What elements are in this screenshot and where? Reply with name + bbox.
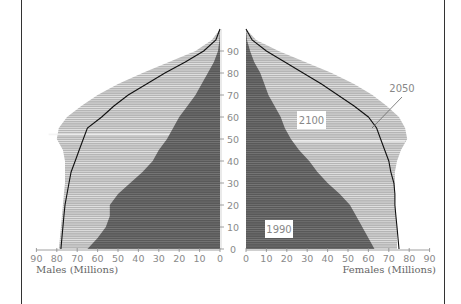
males-axis-title: Males (Millions) — [36, 264, 118, 275]
age-tick-label: 0 — [230, 244, 236, 255]
female-x-tick-label: 30 — [301, 253, 313, 264]
female-x-tick-label: 90 — [424, 253, 436, 264]
female-x-tick-label: 0 — [243, 253, 249, 264]
label-1990: 1990 — [266, 224, 291, 235]
age-tick-label: 20 — [227, 200, 239, 211]
male-x-tick-label: 60 — [92, 253, 104, 264]
female-x-tick-label: 40 — [322, 253, 334, 264]
female-x-tick-label: 20 — [281, 253, 293, 264]
female-x-tick-label: 80 — [403, 253, 415, 264]
age-tick-label: 40 — [227, 156, 239, 167]
age-tick-label: 50 — [227, 134, 239, 145]
male-x-tick-label: 10 — [194, 253, 206, 264]
male-x-tick-label: 80 — [51, 253, 63, 264]
female-x-tick-label: 50 — [342, 253, 354, 264]
females-axis-title: Females (Millions) — [342, 264, 436, 275]
female-x-tick-label: 10 — [260, 253, 272, 264]
label-2100: 2100 — [299, 115, 324, 126]
male-x-tick-label: 0 — [217, 253, 223, 264]
male-x-tick-label: 70 — [71, 253, 83, 264]
age-tick-label: 70 — [227, 90, 239, 101]
male-x-tick-label: 20 — [173, 253, 185, 264]
age-tick-label: 80 — [227, 68, 239, 79]
male-x-tick-label: 90 — [30, 253, 42, 264]
age-tick-label: 60 — [227, 112, 239, 123]
male-x-tick-label: 40 — [132, 253, 144, 264]
label-2050: 2050 — [389, 83, 414, 94]
age-tick-label: 90 — [227, 46, 239, 57]
male-x-tick-label: 30 — [153, 253, 165, 264]
female-x-tick-label: 60 — [362, 253, 374, 264]
female-x-tick-label: 70 — [383, 253, 395, 264]
age-tick-label: 10 — [227, 222, 239, 233]
male-x-tick-label: 50 — [112, 253, 124, 264]
age-tick-label: 30 — [227, 178, 239, 189]
